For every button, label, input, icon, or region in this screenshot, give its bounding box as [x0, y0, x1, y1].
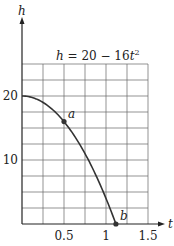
- y-axis-label: h: [18, 4, 26, 18]
- point-label-a: a: [68, 107, 75, 121]
- x-tick-label: 0.5: [54, 229, 73, 243]
- x-axis-arrow-icon: [158, 222, 165, 227]
- x-tick-label: 1: [102, 229, 110, 243]
- labels: ht0.511.51020ab: [3, 4, 173, 243]
- point-a: [61, 119, 66, 124]
- x-tick-label: 1.5: [138, 229, 157, 243]
- y-axis-arrow-icon: [20, 17, 25, 24]
- chart: ht0.511.51020ab h = 20 − 16t2: [0, 0, 174, 246]
- grid: [22, 64, 148, 224]
- point-b: [113, 221, 118, 226]
- point-label-b: b: [120, 209, 128, 223]
- equation-label: h = 20 − 16t2: [56, 48, 140, 63]
- points: [61, 119, 118, 227]
- y-tick-label: 10: [3, 153, 18, 167]
- y-tick-label: 20: [3, 89, 18, 103]
- x-axis-label: t: [168, 217, 173, 231]
